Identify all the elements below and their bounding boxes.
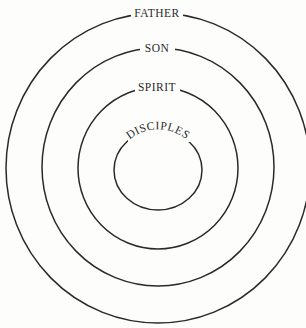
label-father: FATHER — [134, 7, 180, 19]
ring-father — [6, 13, 306, 323]
label-son: SON — [145, 42, 170, 54]
concentric-circles-diagram: FATHER SON SPIRIT DISCIPLES — [0, 0, 306, 328]
label-spirit: SPIRIT — [138, 81, 176, 93]
ring-spirit — [78, 87, 238, 249]
